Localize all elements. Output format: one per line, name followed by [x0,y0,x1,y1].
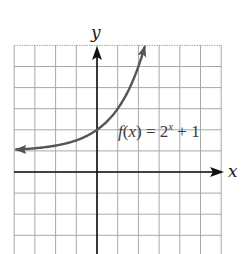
function-label-eq: = 2 [142,122,169,141]
function-graph: y x f(x) = 2x + 1 [0,0,241,254]
axes [14,46,224,254]
y-axis-label: y [90,22,101,42]
function-label-tail: + 1 [173,122,200,141]
grid-lines [14,45,221,254]
function-label: f(x) = 2x + 1 [118,120,200,141]
x-axis-label: x [228,161,238,181]
